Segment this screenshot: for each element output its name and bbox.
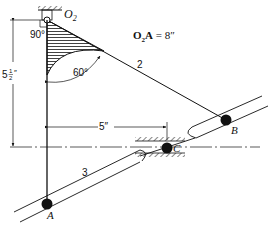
point-a <box>42 199 53 210</box>
label-link-2: 2 <box>137 59 143 70</box>
label-equation: O2A = 8″ <box>133 29 175 44</box>
point-b <box>221 115 232 126</box>
label-c: C <box>173 142 181 154</box>
point-c <box>162 143 173 154</box>
label-a: A <box>46 209 54 221</box>
svg-text:5: 5 <box>2 69 8 80</box>
label-b: B <box>231 124 238 136</box>
label-angle-60: 60° <box>73 67 88 78</box>
svg-text:1: 1 <box>9 68 13 74</box>
label-link-3: 3 <box>82 167 88 178</box>
label-dim-vertical: 5 1 2 ″ <box>2 68 17 81</box>
svg-text:2: 2 <box>9 75 13 81</box>
svg-text:″: ″ <box>14 68 17 77</box>
label-dim-horizontal: 5″ <box>99 121 109 132</box>
ground-support-o2 <box>38 6 62 20</box>
mechanism-diagram: O2 O2A = 8″ 90° 60° 2 3 A C B 5 1 2 ″ 5″ <box>0 0 271 228</box>
label-o2: O2 <box>64 7 77 23</box>
label-angle-90: 90° <box>30 29 45 40</box>
